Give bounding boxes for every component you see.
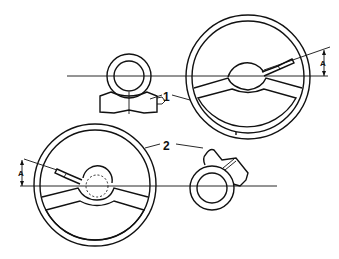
upper-steering-wheel (186, 15, 310, 139)
callout-1: 1 (150, 90, 190, 104)
lower-dimension-label: A (18, 169, 24, 178)
lower-steering-wheel (34, 124, 156, 246)
upper-dimension-label: A (320, 59, 326, 68)
callout-1-label: 1 (163, 90, 170, 104)
steering-wheel-diagram: A 1 A (0, 0, 339, 259)
upper-assembly: A 1 (67, 15, 330, 139)
lower-assembly: A 2 (18, 124, 277, 246)
upper-column-switch (100, 54, 165, 114)
lower-dimension-a: A (18, 159, 57, 186)
callout-2-label: 2 (163, 139, 170, 153)
lower-column-switch (190, 150, 248, 211)
callout-2: 2 (145, 139, 203, 153)
